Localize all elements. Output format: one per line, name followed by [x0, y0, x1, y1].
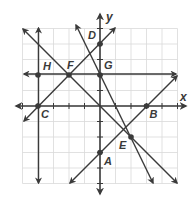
point-g — [97, 72, 103, 78]
point-label-f: F — [67, 59, 74, 71]
graph-canvas: x y ABCDEFGH — [0, 0, 195, 208]
point-label-b: B — [150, 108, 158, 120]
point-label-c: C — [41, 108, 50, 120]
point-label-a: A — [103, 155, 112, 167]
point-f — [66, 72, 72, 78]
point-e — [128, 134, 134, 140]
point-b — [144, 103, 150, 109]
coordinate-plane-diagram: x y ABCDEFGH — [0, 0, 195, 208]
point-label-d: D — [88, 29, 96, 41]
y-axis-label: y — [105, 10, 114, 24]
point-label-g: G — [104, 59, 113, 71]
point-h — [35, 72, 41, 78]
point-d — [97, 41, 103, 47]
point-c — [35, 103, 41, 109]
point-label-e: E — [119, 139, 127, 151]
point-a — [97, 150, 103, 156]
x-axis-label: x — [179, 90, 188, 104]
point-label-h: H — [43, 60, 52, 72]
line-y-2x-2 — [76, 25, 153, 183]
